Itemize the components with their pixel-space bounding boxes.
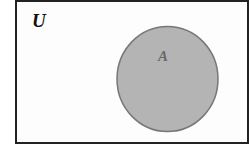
- universe-label: U: [32, 10, 47, 31]
- set-a-label: A: [157, 48, 168, 64]
- set-a-circle: [117, 27, 218, 132]
- venn-diagram: U A: [0, 0, 250, 145]
